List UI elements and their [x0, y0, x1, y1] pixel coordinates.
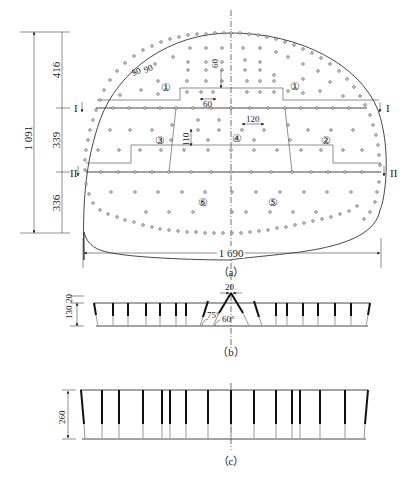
angle-75: 75°: [207, 310, 220, 320]
dim-middle-height: 339: [50, 131, 62, 148]
dim-60-horizontal: 60: [203, 99, 213, 109]
zone-label: ⑥: [198, 196, 208, 208]
panel-c: 260 （c）: [57, 383, 368, 467]
caption-a: （a）: [218, 266, 245, 278]
inner-dimensions: 50 90 60 60 120 110: [130, 59, 264, 147]
dim-depth-20: 20: [64, 294, 74, 304]
caption-c: （c）: [218, 455, 245, 467]
cut-holes-left: [94, 303, 186, 326]
dim-depth-260: 260: [57, 410, 67, 424]
bottom-dimension: 1 690: [83, 238, 381, 268]
dim-60-vertical: 60: [210, 59, 220, 69]
left-dimensions: 1 091 416 339 336: [20, 32, 70, 233]
dim-total-height: 1 091: [22, 126, 34, 151]
section-mark-ii-left: II: [70, 167, 78, 179]
panel-b: 130 20 20 75° 60° （b）: [64, 282, 370, 358]
caption-b: （b）: [217, 346, 245, 358]
dim-top-gap-20: 20: [225, 282, 235, 292]
angle-60: 60°: [222, 314, 235, 324]
zone-label: ①: [161, 81, 171, 93]
zone-label: ②: [321, 134, 331, 146]
panel-b-dimensions: 130 20 20 75° 60°: [64, 282, 242, 326]
dim-110: 110: [181, 132, 191, 146]
dim-120: 120: [246, 114, 260, 124]
zone-label: ⑤: [268, 196, 278, 208]
panel-c-dimensions: 260: [57, 390, 76, 439]
dim-perimeter-burden: 90: [142, 62, 154, 75]
diagram-canvas: ① ① ② ③ ④ ⑤ ⑥ I I II II 1 091: [0, 0, 413, 484]
straight-holes: [81, 390, 368, 439]
section-mark-i-right: I: [386, 102, 390, 114]
zone-label: ④: [232, 132, 242, 144]
dim-upper-height: 416: [50, 61, 62, 78]
zone-label: ①: [290, 80, 300, 92]
cut-holes-right: [276, 303, 370, 326]
panel-a: ① ① ② ③ ④ ⑤ ⑥ I I II II 1 091: [20, 10, 398, 280]
dim-lower-height: 336: [50, 194, 62, 211]
section-mark-i-left: I: [74, 102, 78, 114]
tunnel-outline: [84, 33, 387, 260]
dim-total-width: 1 690: [219, 247, 244, 259]
zone-label: ③: [155, 134, 165, 146]
section-mark-ii-right: II: [390, 167, 398, 179]
dim-depth-130: 130: [64, 305, 74, 319]
dim-perimeter-spacing: 50: [130, 65, 142, 78]
